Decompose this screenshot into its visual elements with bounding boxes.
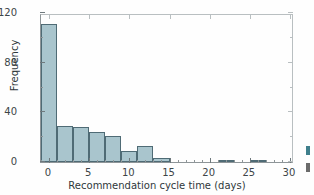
x-tick-top [170,14,171,19]
x-tick-minor [178,160,179,163]
x-tick-label: 30 [274,167,304,178]
y-tick-right [290,37,293,38]
histogram-bar [57,126,73,162]
legend-swatch-fragment [306,163,314,172]
x-tick-top [129,14,130,19]
legend-color-swatch [306,146,310,155]
x-tick-minor [81,160,82,163]
y-tick-minor [40,136,43,137]
x-tick-minor [97,160,98,163]
x-tick-minor [242,160,243,163]
y-tick-label: 120 [0,7,17,18]
x-tick-minor [186,160,187,163]
x-tick-major [49,158,50,163]
x-tick-minor [161,160,162,163]
x-tick-minor [234,160,235,163]
y-tick-right [290,136,293,137]
x-tick-label: 5 [73,167,103,178]
x-tick-top [210,14,211,19]
y-tick-minor [40,37,43,38]
x-tick-label: 25 [234,167,264,178]
x-tick-major [129,158,130,163]
x-tick-top [290,14,291,19]
x-tick-label: 20 [194,167,224,178]
y-tick-label: 0 [0,156,17,167]
x-tick-minor [218,160,219,163]
legend-swatch-fragment [306,146,314,155]
x-tick-minor [121,160,122,163]
x-tick-minor [282,160,283,163]
x-axis-title: Recommendation cycle time (days) [0,180,314,191]
x-tick-top [89,14,90,19]
x-tick-minor [65,160,66,163]
histogram-figure: 051015202530 04080120 Recommendation cyc… [0,0,314,195]
x-tick-major [89,158,90,163]
x-tick-minor [145,160,146,163]
y-tick-right [288,12,293,13]
x-tick-major [170,158,171,163]
x-tick-minor [105,160,106,163]
y-tick-right [288,62,293,63]
histogram-bar [105,136,121,162]
y-tick-right [290,87,293,88]
y-tick-major [40,62,45,63]
x-tick-minor [274,160,275,163]
x-tick-minor [266,160,267,163]
x-tick-top [250,14,251,19]
x-tick-minor [258,160,259,163]
x-tick-minor [113,160,114,163]
x-tick-minor [137,160,138,163]
y-axis-title: Frequency [9,26,20,106]
x-tick-label: 15 [154,167,184,178]
bar-series [41,15,292,162]
x-tick-minor [57,160,58,163]
x-tick-label: 0 [33,167,63,178]
histogram-bar [89,132,105,162]
x-tick-minor [153,160,154,163]
legend-color-swatch [306,163,310,172]
y-tick-major [40,111,45,112]
x-tick-minor [73,160,74,163]
y-tick-minor [40,87,43,88]
y-tick-right [288,161,293,162]
y-tick-label: 40 [0,106,17,117]
x-tick-minor [194,160,195,163]
histogram-bar [73,127,89,162]
x-tick-top [49,14,50,19]
x-tick-major [210,158,211,163]
x-tick-major [250,158,251,163]
x-tick-minor [226,160,227,163]
plot-area [40,14,293,163]
x-tick-label: 10 [113,167,143,178]
y-tick-major [40,161,45,162]
y-tick-major [40,12,45,13]
y-tick-right [288,111,293,112]
x-tick-minor [202,160,203,163]
histogram-bar [41,24,57,162]
